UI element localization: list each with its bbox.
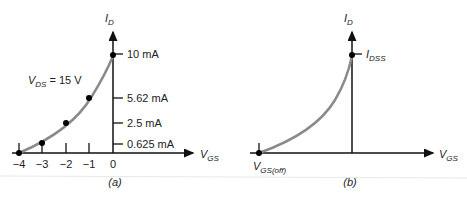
svg-text:−2: −2 — [60, 158, 73, 170]
transfer-curve — [19, 56, 113, 153]
svg-text:0.625 mA: 0.625 mA — [127, 138, 175, 150]
svg-text:−1: −1 — [83, 158, 96, 170]
x-tick-labels: −4 −3 −2 −1 0 — [13, 158, 116, 170]
svg-text:−3: −3 — [36, 158, 49, 170]
svg-text:−4: −4 — [13, 158, 26, 170]
panel-b: ID VGS IDSS VGS(off) (b) — [250, 12, 459, 188]
svg-text:2.5 mA: 2.5 mA — [127, 117, 163, 129]
y-ticks — [113, 54, 123, 144]
svg-text:0: 0 — [110, 158, 116, 170]
caption-a: (a) — [108, 176, 122, 188]
svg-text:ID: ID — [344, 12, 353, 27]
vgs-off-label: VGS(off) — [253, 160, 286, 175]
transconductance-curves-figure: ID VGS VDS = 15 V 10 mA 5.62 mA 2.5 mA 0… — [0, 0, 467, 199]
svg-text:ID: ID — [105, 12, 114, 27]
svg-text:10 mA: 10 mA — [127, 48, 159, 60]
svg-text:VGS: VGS — [200, 148, 220, 163]
panel-a: ID VGS VDS = 15 V 10 mA 5.62 mA 2.5 mA 0… — [12, 12, 220, 188]
idss-label: IDSS — [366, 48, 386, 63]
data-points — [16, 52, 116, 156]
curve-label: VDS = 15 V — [28, 74, 82, 89]
transfer-curve — [259, 56, 352, 153]
y-tick-labels: 10 mA 5.62 mA 2.5 mA 0.625 mA — [127, 48, 175, 150]
svg-text:VGS: VGS — [439, 148, 459, 163]
idss-point — [349, 52, 355, 58]
vgs-off-point — [256, 150, 262, 156]
divider — [0, 176, 467, 178]
svg-text:5.62 mA: 5.62 mA — [127, 92, 169, 104]
